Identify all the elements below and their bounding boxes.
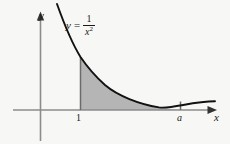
equation-fraction: 1 x2: [83, 14, 95, 37]
shaded-region: [81, 57, 181, 110]
x-tick-label-lower-bound: 1: [76, 113, 81, 123]
equation-numerator: 1: [85, 14, 94, 25]
equation-denominator-exponent: 2: [90, 25, 94, 33]
x-axis-label: x: [214, 112, 219, 123]
equation-denominator: x2: [83, 26, 95, 37]
x-tick-label-upper-bound: a: [177, 113, 182, 123]
equation-equals-sign: =: [73, 20, 81, 31]
y-axis-label: y: [39, 10, 44, 21]
plot-svg: [0, 0, 230, 144]
equation-lhs: y: [66, 20, 71, 31]
figure-area-under-curve: y x 1 a y = 1 x2: [0, 0, 230, 144]
curve-equation-label: y = 1 x2: [66, 14, 95, 37]
